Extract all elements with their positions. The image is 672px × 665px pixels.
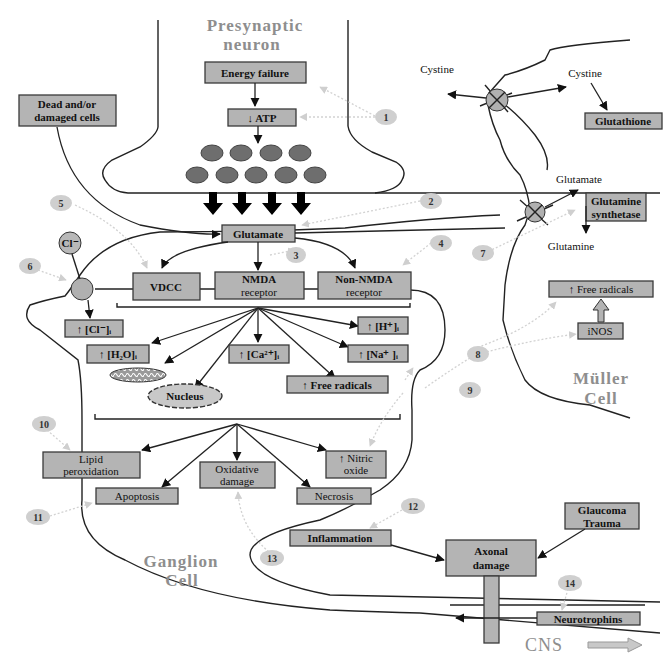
cl-intracellular-box: ↑ [Cl⁻]ᵢ xyxy=(65,320,123,337)
muller-title-2: Cell xyxy=(584,389,617,408)
svg-text:11: 11 xyxy=(33,512,42,523)
svg-text:↑ [H₂O]ᵢ: ↑ [H₂O]ᵢ xyxy=(99,348,137,360)
svg-text:Glutamate: Glutamate xyxy=(233,228,283,240)
marker-6: 6 xyxy=(19,258,41,274)
marker-13: 13 xyxy=(260,550,284,566)
svg-text:oxide: oxide xyxy=(344,464,369,476)
svg-text:Energy failure: Energy failure xyxy=(221,67,289,79)
nitric-oxide-box: ↑ Nitric oxide xyxy=(326,451,386,478)
axonal-damage-box: Axonal damage xyxy=(446,540,536,576)
lipid-peroxidation-box: Lipid peroxidation xyxy=(43,452,140,478)
svg-text:Non-NMDA: Non-NMDA xyxy=(335,273,392,285)
glutamine-synthetase-box: Glutamine synthetase xyxy=(586,193,646,221)
excitotoxicity-diagram: Energy failure ↓ ATP Presynaptic neuron … xyxy=(0,0,672,665)
muller-title: Müller xyxy=(573,369,629,388)
svg-text:damaged cells: damaged cells xyxy=(34,111,100,123)
svg-text:iNOS: iNOS xyxy=(587,325,612,337)
neurotrophins-box: Neurotrophins xyxy=(537,612,640,625)
marker-3: 3 xyxy=(286,247,306,263)
svg-text:Glaucoma: Glaucoma xyxy=(578,504,627,516)
marker-8: 8 xyxy=(467,346,489,362)
svg-text:Lipid: Lipid xyxy=(79,453,103,465)
svg-text:Necrosis: Necrosis xyxy=(315,490,354,502)
svg-text:damage: damage xyxy=(473,559,510,571)
svg-text:synthetase: synthetase xyxy=(592,208,641,220)
svg-text:4: 4 xyxy=(439,238,444,249)
svg-text:5: 5 xyxy=(59,198,64,209)
svg-text:Nucleus: Nucleus xyxy=(166,390,204,402)
svg-text:10: 10 xyxy=(39,419,49,430)
marker-7: 7 xyxy=(472,245,494,261)
svg-text:NMDA: NMDA xyxy=(242,273,276,285)
glutathione-box: Glutathione xyxy=(585,113,662,129)
svg-text:8: 8 xyxy=(476,349,481,360)
svg-text:Apoptosis: Apoptosis xyxy=(115,490,160,502)
na-box: ↑ [Na⁺ ]ᵢ xyxy=(348,345,408,362)
svg-text:Cystine: Cystine xyxy=(420,63,454,75)
inflammation-box: Inflammation xyxy=(290,530,391,546)
marker-4: 4 xyxy=(430,235,452,251)
marker-14: 14 xyxy=(558,575,582,591)
marker-5: 5 xyxy=(50,195,72,211)
svg-text:↑ Nitric: ↑ Nitric xyxy=(339,452,373,464)
dead-cells-box: Dead and/or damaged cells xyxy=(19,95,116,126)
svg-text:↓ ATP: ↓ ATP xyxy=(248,112,277,124)
svg-text:Trauma: Trauma xyxy=(583,517,621,529)
svg-text:↑ [Cl⁻]ᵢ: ↑ [Cl⁻]ᵢ xyxy=(77,323,112,335)
muller-membrane xyxy=(489,40,630,93)
release-arrows xyxy=(203,192,311,215)
svg-text:Dead and/or: Dead and/or xyxy=(38,98,96,110)
svg-text:Cl⁻: Cl⁻ xyxy=(62,237,79,249)
mitochondrion-icon xyxy=(110,368,166,382)
marker-11: 11 xyxy=(26,509,50,525)
svg-text:Glutamine: Glutamine xyxy=(591,195,641,207)
atp-box: ↓ ATP xyxy=(228,109,296,126)
svg-text:Glutathione: Glutathione xyxy=(595,115,651,127)
necrosis-box: Necrosis xyxy=(297,488,371,504)
svg-text:damage: damage xyxy=(220,475,254,487)
svg-text:Oxidative: Oxidative xyxy=(215,463,258,475)
svg-text:12: 12 xyxy=(408,501,418,512)
svg-text:2: 2 xyxy=(429,196,434,207)
svg-text:↑ Free radicals: ↑ Free radicals xyxy=(302,379,372,391)
glutamate-transporter-icon xyxy=(517,200,553,225)
svg-text:13: 13 xyxy=(267,553,277,564)
svg-text:3: 3 xyxy=(294,250,299,261)
svg-text:↑ [Ca²⁺]ᵢ: ↑ [Ca²⁺]ᵢ xyxy=(239,348,279,360)
oxidative-damage-box: Oxidative damage xyxy=(200,462,275,488)
cns-label: CNS xyxy=(525,635,563,655)
glutamate-box: Glutamate xyxy=(222,225,295,242)
cl-channel xyxy=(71,278,93,300)
svg-text:14: 14 xyxy=(565,578,575,589)
apoptosis-box: Apoptosis xyxy=(96,488,178,504)
svg-text:9: 9 xyxy=(468,385,473,396)
marker-10: 10 xyxy=(32,416,56,432)
h2o-box: ↑ [H₂O]ᵢ xyxy=(87,345,149,363)
h-box: ↑ [H⁺]ᵢ xyxy=(358,317,408,334)
glaucoma-trauma-box: Glaucoma Trauma xyxy=(565,503,639,529)
muller-free-radicals-box: ↑ Free radicals xyxy=(549,281,653,297)
svg-text:7: 7 xyxy=(481,248,486,259)
svg-text:VDCC: VDCC xyxy=(150,281,182,293)
svg-text:↑ Free radicals: ↑ Free radicals xyxy=(569,283,634,295)
svg-text:1: 1 xyxy=(384,112,389,123)
presynaptic-title-2: neuron xyxy=(223,35,281,54)
ca-box: ↑ [Ca²⁺]ᵢ xyxy=(229,345,289,363)
synaptic-vesicles xyxy=(186,145,326,183)
inos-up-arrow-icon xyxy=(593,299,609,322)
energy-failure-box: Energy failure xyxy=(205,62,306,83)
nmda-receptor-box: NMDA receptor xyxy=(215,272,304,299)
svg-text:6: 6 xyxy=(28,261,33,272)
svg-text:Glutamine: Glutamine xyxy=(548,240,595,252)
svg-text:Glutamate: Glutamate xyxy=(556,173,602,185)
svg-text:↑ [Na⁺ ]ᵢ: ↑ [Na⁺ ]ᵢ xyxy=(358,348,398,360)
svg-text:receptor: receptor xyxy=(241,286,277,298)
cns-arrow-icon xyxy=(588,638,642,652)
presynaptic-membrane xyxy=(103,20,660,193)
marker-2: 2 xyxy=(420,193,442,209)
vdcc-box: VDCC xyxy=(133,273,200,300)
ganglion-title-2: Cell xyxy=(165,571,198,590)
marker-9: 9 xyxy=(459,382,481,398)
svg-text:↑ [H⁺]ᵢ: ↑ [H⁺]ᵢ xyxy=(367,320,399,332)
inos-box: iNOS xyxy=(578,323,623,339)
